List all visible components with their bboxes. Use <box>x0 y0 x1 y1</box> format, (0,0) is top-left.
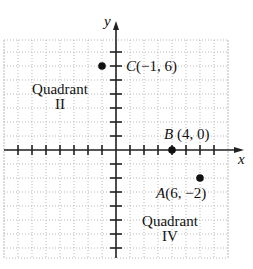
x-axis-label: x <box>238 152 245 167</box>
quadrant-ii-line1: Quadrant <box>20 82 100 97</box>
point-c-label: C(−1, 6) <box>126 59 177 74</box>
quadrant-iv-line2: IV <box>130 229 210 244</box>
point-c-marker <box>98 62 106 70</box>
quadrant-ii-label: Quadrant II <box>20 82 100 112</box>
y-axis-label: y <box>104 14 111 29</box>
point-c-letter: C <box>126 58 136 74</box>
point-a-letter: A <box>156 185 165 201</box>
point-b-label: B (4, 0) <box>164 127 209 142</box>
point-b-coords: (4, 0) <box>173 126 209 142</box>
quadrant-iv-label: Quadrant IV <box>130 214 210 244</box>
point-b-marker <box>168 146 176 154</box>
quadrant-iv-line1: Quadrant <box>130 214 210 229</box>
point-a-label: A(6, −2) <box>156 186 206 201</box>
point-a-coords: (6, −2) <box>165 185 206 201</box>
coordinate-plane <box>0 0 253 269</box>
point-b-letter: B <box>164 126 173 142</box>
point-c-coords: (−1, 6) <box>136 58 177 74</box>
point-a-marker <box>196 174 204 182</box>
quadrant-ii-line2: II <box>20 97 100 112</box>
